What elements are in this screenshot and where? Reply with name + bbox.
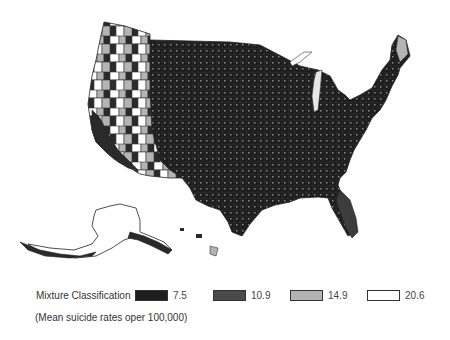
lake-superior: [290, 52, 312, 66]
legend-subtitle: (Mean suicide rates oper 100,000): [35, 312, 187, 323]
legend-label-1: 7.5: [173, 290, 187, 301]
legend-label-2: 10.9: [251, 290, 270, 301]
region-hawaii-2: [196, 234, 202, 238]
legend-label-3: 14.9: [328, 290, 347, 301]
legend-swatch-4: [367, 290, 400, 301]
region-alaska: [28, 204, 172, 258]
legend-label-4: 20.6: [405, 290, 424, 301]
region-hawaii-3: [210, 246, 218, 256]
legend-swatch-2: [213, 290, 246, 301]
legend-title: Mixture Classification: [36, 290, 130, 301]
region-hawaii-1: [180, 228, 184, 231]
legend-swatch-3: [290, 290, 323, 301]
choropleth-map: [0, 0, 450, 270]
region-east: [150, 35, 410, 236]
legend-swatch-1: [135, 290, 168, 301]
map-legend: Mixture Classification 7.5 10.9 14.9 20.…: [0, 283, 450, 323]
